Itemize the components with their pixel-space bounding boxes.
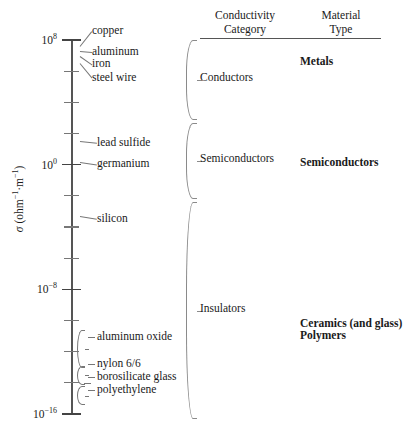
material-label: borosilicate glass [97,370,177,382]
leader-line-5 [80,162,97,165]
material-label: lead sulfide [97,136,150,148]
header-line-2: Category [200,22,290,36]
material-label: steel wire [92,71,136,83]
material-label: copper [92,24,123,36]
material-label: silicon [97,212,128,224]
leader-line-3 [80,64,93,79]
axis-tick-0 [62,164,81,165]
label-dash-10 [88,390,95,391]
range-brace-7 [77,330,85,368]
header-line-2: Type [300,22,382,36]
label-dash-7 [88,337,95,338]
category-label: Insulators [200,302,245,314]
axis-tick--8 [62,289,81,290]
category-brace-2 [186,202,197,419]
header-line-1: Conductivity [200,8,290,22]
axis-tick-2 [64,133,79,134]
material-label: germanium [97,157,149,169]
column-header-conductivity-category: Conductivity Category [200,8,290,36]
header-rule [200,38,381,39]
material-label: polyethylene [97,383,156,395]
axis-tick-label--16: 10−16 [0,406,57,420]
tick-dash-9 [84,383,91,384]
axis-tick--10 [64,320,79,321]
column-header-material-type: Material Type [300,8,382,36]
leader-line-1 [80,51,92,53]
material-type-label: Semiconductors [300,155,379,169]
axis-tick-8 [62,39,81,40]
material-label: aluminum oxide [97,330,172,342]
axis-tick-6 [64,71,79,72]
leader-line-6 [80,216,97,220]
label-dash-8 [88,364,95,365]
y-axis-title: σ (ohm−1·m−1) [11,129,25,269]
axis-tick--2 [64,195,79,196]
axis-tick-label-8: 108 [0,32,57,46]
axis-tick--14 [64,382,79,383]
material-label: aluminum [92,45,139,57]
axis-tick--6 [64,258,79,259]
leader-line-0 [80,31,93,47]
category-label: Semiconductors [200,152,274,164]
axis-tick--16 [62,413,81,414]
category-brace-1 [186,123,197,200]
leader-line-4 [80,141,97,144]
conductivity-scale-figure: σ (ohm−1·m−1) Conductivity Category Mate… [0,0,403,430]
header-line-1: Material [300,8,382,22]
category-label: Conductors [200,71,253,83]
range-brace-10 [77,386,85,405]
category-brace-0 [186,40,197,120]
label-dash-9 [88,377,95,378]
material-label: iron [92,57,111,69]
axis-tick--4 [64,226,79,227]
axis-tick-label-0: 100 [0,157,57,171]
axis-tick-4 [64,102,79,103]
leader-line-2 [80,56,93,65]
material-type-label: Polymers [300,328,346,342]
material-label: nylon 6/6 [97,357,141,369]
material-type-label: Metals [300,54,333,68]
axis-tick-label--8: 10−8 [0,281,57,295]
